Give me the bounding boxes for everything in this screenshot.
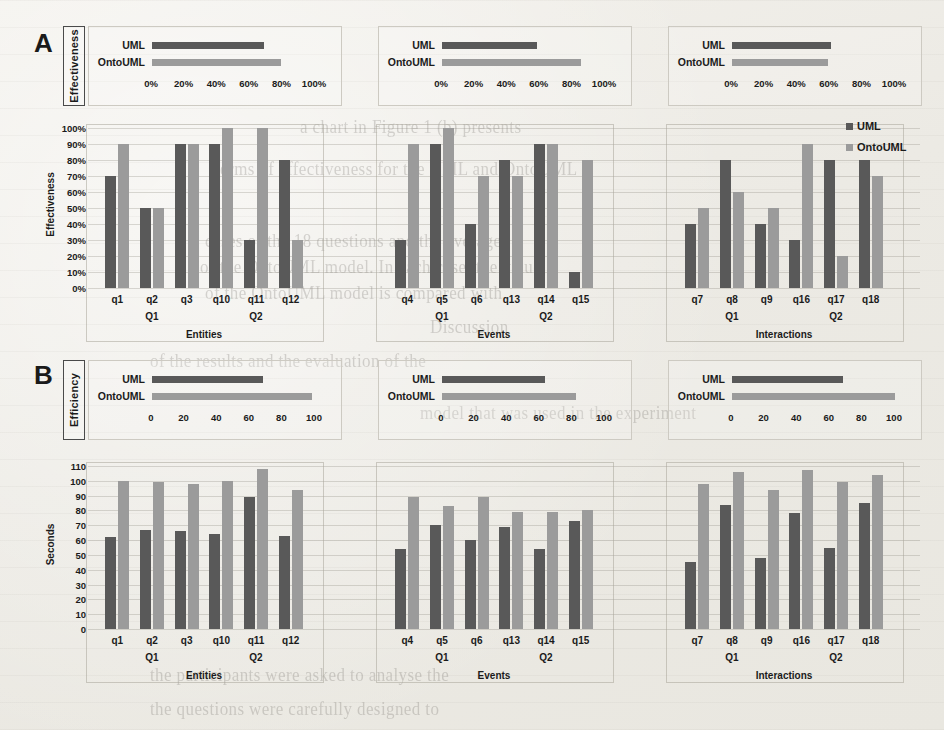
y-axis-tick: 80 — [56, 505, 86, 516]
bar-ontouml-q11 — [257, 469, 268, 629]
y-axis-tick: 0 — [56, 624, 86, 635]
summary-axis-tick: 100 — [596, 412, 612, 423]
bar-ontouml-q9 — [768, 490, 779, 629]
bar-uml-q9 — [755, 558, 766, 629]
summary-axis: 020406080100 — [731, 412, 894, 424]
bar-ontouml-q7 — [698, 484, 709, 629]
summary-panel-a-summary-entities: UMLOntoUML0%20%40%60%80%100% — [88, 26, 342, 106]
bar-uml-q11 — [244, 497, 255, 629]
bar-ontouml-q1 — [118, 481, 129, 629]
bar-ontouml-q2 — [153, 482, 164, 629]
bar-uml-q6 — [465, 224, 476, 288]
plot-panel-b-entities — [100, 466, 308, 629]
summary-bar-uml — [732, 42, 831, 49]
summary-series-label: OntoUML — [379, 390, 442, 402]
summary-axis-tick: 20% — [174, 78, 193, 89]
summary-series-label: OntoUML — [89, 390, 152, 402]
bar-ontouml-q10 — [222, 481, 233, 629]
y-axis-tick: 10 — [56, 609, 86, 620]
summary-axis-tick: 0% — [144, 78, 158, 89]
y-axis-tick: 20 — [56, 594, 86, 605]
bar-ontouml-q6 — [478, 176, 489, 288]
summary-axis-tick: 60% — [529, 78, 548, 89]
summary-axis-tick: 100% — [882, 78, 906, 89]
y-axis-tick: 60 — [56, 535, 86, 546]
bar-ontouml-q4 — [408, 144, 419, 288]
bar-uml-q15 — [569, 272, 580, 288]
summary-row: OntoUML — [669, 56, 921, 68]
summary-axis: 020406080100 — [151, 412, 314, 424]
summary-axis: 0%20%40%60%80%100% — [441, 78, 604, 90]
bar-ontouml-q6 — [478, 497, 489, 629]
summary-axis-tick: 100 — [306, 412, 322, 423]
bar-ontouml-q4 — [408, 497, 419, 629]
axis-title-label: Effectiveness — [68, 29, 80, 103]
bar-ontouml-q3 — [188, 484, 199, 629]
summary-axis-tick: 0% — [434, 78, 448, 89]
summary-axis-tick: 60% — [239, 78, 258, 89]
bar-uml-q10 — [209, 144, 220, 288]
bar-uml-q18 — [859, 503, 870, 629]
summary-axis-tick: 60 — [534, 412, 545, 423]
plot-panel-b-interactions — [680, 466, 888, 629]
summary-axis-tick: 60 — [824, 412, 835, 423]
summary-axis-tick: 40% — [497, 78, 516, 89]
bar-ontouml-q17 — [837, 256, 848, 288]
bar-uml-q16 — [789, 240, 800, 288]
summary-row: UML — [89, 373, 341, 385]
bar-ontouml-q14 — [547, 512, 558, 629]
bar-uml-q4 — [395, 549, 406, 629]
summary-bar-ontouml — [442, 59, 581, 66]
summary-axis-tick: 40 — [791, 412, 802, 423]
summary-bar-ontouml — [732, 393, 895, 400]
bar-ontouml-q18 — [872, 176, 883, 288]
bar-uml-q14 — [534, 549, 545, 629]
plot-panel-b-events — [390, 466, 598, 629]
summary-row: UML — [89, 39, 341, 51]
bar-ontouml-q12 — [292, 240, 303, 288]
y-axis-title: Effectiveness — [45, 155, 56, 255]
summary-track — [152, 42, 315, 49]
legend-item-uml: UML — [846, 120, 881, 132]
bar-uml-q17 — [824, 160, 835, 288]
summary-axis-tick: 20 — [178, 412, 189, 423]
figure-root: a chart in Figure 1 (b) presentsterms of… — [0, 0, 944, 730]
summary-axis: 020406080100 — [441, 412, 604, 424]
summary-axis-tick: 80% — [852, 78, 871, 89]
summary-panel-b-summary-events: UMLOntoUML020406080100 — [378, 360, 632, 440]
y-axis-tick: 40% — [56, 219, 86, 230]
summary-panel-b-summary-entities: UMLOntoUML020406080100 — [88, 360, 342, 440]
y-axis-tick: 90 — [56, 490, 86, 501]
summary-series-label: UML — [89, 39, 152, 51]
bar-uml-q7 — [685, 562, 696, 629]
summary-axis-tick: 60 — [244, 412, 255, 423]
bar-uml-q12 — [279, 536, 290, 629]
summary-axis-tick: 0 — [438, 412, 443, 423]
y-axis-tick: 30 — [56, 579, 86, 590]
bar-uml-q1 — [105, 176, 116, 288]
plot-panel-a-events — [390, 128, 598, 288]
summary-panel-a-summary-events: UMLOntoUML0%20%40%60%80%100% — [378, 26, 632, 106]
bar-uml-q6 — [465, 540, 476, 629]
legend-swatch-uml — [846, 123, 853, 130]
summary-series-label: OntoUML — [379, 56, 442, 68]
y-axis-tick: 50 — [56, 549, 86, 560]
bar-uml-q3 — [175, 144, 186, 288]
summary-row: UML — [669, 39, 921, 51]
summary-axis-tick: 60% — [819, 78, 838, 89]
bar-ontouml-q14 — [547, 144, 558, 288]
bar-uml-q11 — [244, 240, 255, 288]
summary-row: OntoUML — [379, 56, 631, 68]
summary-axis-tick: 100 — [886, 412, 902, 423]
bar-uml-q2 — [140, 208, 151, 288]
y-axis-tick: 70% — [56, 171, 86, 182]
bar-uml-q15 — [569, 521, 580, 629]
summary-track — [442, 393, 605, 400]
summary-track — [732, 393, 895, 400]
y-axis-tick: 80% — [56, 155, 86, 166]
y-axis-tick: 100 — [56, 475, 86, 486]
summary-bar-uml — [442, 42, 537, 49]
bar-uml-q13 — [499, 160, 510, 288]
bar-ontouml-q18 — [872, 475, 883, 629]
summary-bar-uml — [732, 376, 843, 383]
